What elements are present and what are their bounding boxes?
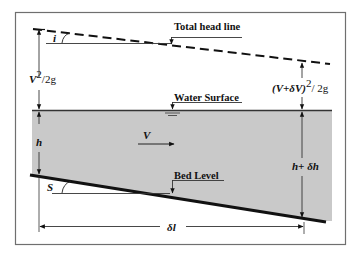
flow-diagram: i S V2/2g h (V+δV)2/ 2g h+ δh V Total he… [0,0,353,256]
total-head-line-label: Total head line [174,21,240,32]
bed-level-label: Bed Level [174,170,219,181]
upstream-depth-label: h [36,136,42,148]
bed-slope-symbol: S [47,181,53,193]
length-label: δl [167,221,177,233]
downstream-depth-label: h+ δh [292,160,319,172]
water-surface-label: Water Surface [174,92,239,103]
